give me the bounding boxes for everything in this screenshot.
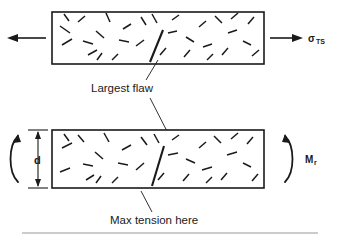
max-tension-label: Max tension here	[110, 214, 198, 226]
depth-dimension: d	[28, 130, 48, 188]
moment-subscript: r	[314, 159, 317, 166]
tension-bar-outline	[52, 12, 264, 64]
figure-root: σ TS Largest flaw	[0, 0, 337, 242]
depth-arrowhead-top	[35, 131, 41, 139]
figure-canvas: σ TS Largest flaw	[0, 0, 337, 242]
max-tension-leader	[141, 191, 152, 212]
depth-arrowhead-bottom	[35, 179, 41, 187]
sigma-subscript: TS	[316, 38, 325, 45]
bending-panel: d M r	[11, 130, 318, 188]
tension-panel: σ TS	[7, 12, 325, 64]
moment-glyph: M	[305, 154, 313, 165]
tension-left-load-arrow	[7, 34, 46, 42]
depth-label: d	[34, 154, 41, 166]
largest-flaw-annotation: Largest flaw	[91, 60, 171, 139]
bending-moment-symbol: M r	[305, 154, 317, 166]
sigma-glyph: σ	[308, 33, 315, 44]
tensile-strength-symbol: σ TS	[308, 33, 325, 45]
max-tension-annotation: Max tension here	[110, 191, 198, 226]
right-moment-arrow	[282, 134, 293, 182]
tension-right-load-arrow	[270, 34, 303, 42]
largest-flaw-label: Largest flaw	[91, 82, 154, 94]
left-moment-arrow	[11, 134, 22, 182]
